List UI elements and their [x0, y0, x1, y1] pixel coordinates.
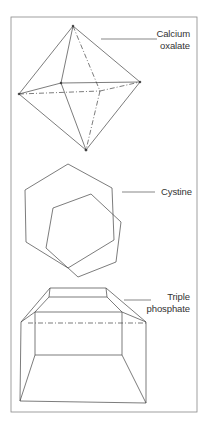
cystine-inner-hexagon — [46, 194, 121, 277]
crystal-diagram — [0, 0, 207, 422]
calcium-oxalate-label-line1: Calcium — [148, 28, 190, 40]
cystine-label: Cystine — [161, 186, 192, 198]
triple-phosphate-label: Triple phosphate — [140, 291, 190, 315]
calcium-oxalate-label: Calcium oxalate — [148, 28, 190, 52]
cystine-hexagons — [25, 164, 121, 277]
cystine-outer-hexagon — [25, 164, 114, 268]
cystine-label-line1: Cystine — [161, 186, 192, 198]
triple-phosphate-prism — [20, 288, 146, 403]
figure-frame — [11, 17, 197, 412]
calcium-oxalate-label-line2: oxalate — [148, 40, 190, 52]
calcium-oxalate-octahedron — [18, 25, 141, 151]
triple-phosphate-label-line2: phosphate — [140, 303, 190, 315]
triple-phosphate-label-line1: Triple — [140, 291, 190, 303]
